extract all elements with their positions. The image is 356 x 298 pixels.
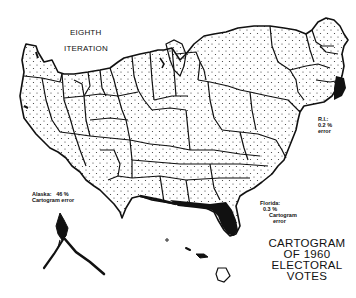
hawaii-islands bbox=[166, 239, 230, 282]
alaska-annotation: Alaska: 46 % Cartogram error bbox=[32, 191, 74, 203]
iteration-heading-line1: EIGHTH bbox=[70, 28, 101, 37]
rhode-island-highlight bbox=[334, 76, 346, 100]
florida-highlight bbox=[170, 200, 238, 236]
ri-annotation-line3: error bbox=[318, 128, 332, 134]
title-line4: VOTES bbox=[257, 271, 356, 282]
alaska-shape bbox=[44, 213, 104, 274]
florida-annotation-line4: error bbox=[260, 218, 297, 224]
florida-annotation: Florida: 0.3 % Cartogram error bbox=[260, 200, 297, 224]
alaska-annotation-line2: Cartogram error bbox=[32, 197, 74, 203]
ri-annotation: R.I.: 0.2 % error bbox=[318, 116, 332, 134]
figure-title: CARTOGRAM OF 1960 ELECTORAL VOTES bbox=[257, 238, 356, 282]
iteration-heading-line2: ITERATION bbox=[64, 44, 108, 53]
